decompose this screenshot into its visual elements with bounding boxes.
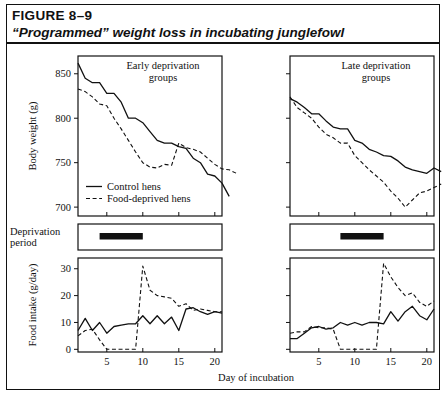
- panel-title-late-line1: Late deprivation: [341, 60, 411, 71]
- weight-early-ytick-label: 800: [55, 113, 71, 124]
- intake-early-frame: [78, 258, 222, 352]
- figure-container: FIGURE 8–9 “Programmed” weight loss in i…: [0, 0, 446, 394]
- intake-late-xtick-label: 5: [316, 356, 321, 367]
- weight-early-ytick-label: 700: [55, 202, 71, 213]
- legend-label-control: Control hens: [107, 181, 161, 192]
- panel-title-late-line2: groups: [362, 72, 391, 83]
- intake-early-ytick-label: 10: [61, 317, 72, 328]
- weight-early-ytick-label: 750: [55, 157, 71, 168]
- intake-late-xtick-label: 10: [350, 356, 361, 367]
- intake-early-xtick-label: 5: [104, 356, 109, 367]
- panel-title-early-line2: groups: [149, 72, 178, 83]
- chart-svg: 700750800850010203051015205101520Body we…: [0, 0, 446, 394]
- deprivation-label-line2: period: [10, 237, 38, 248]
- intake-early-ytick-label: 30: [61, 263, 72, 274]
- intake-early-xtick-label: 15: [174, 356, 185, 367]
- y-axis-title-body-weight: Body weight (g): [27, 101, 39, 170]
- weight-early-series-deprived: [78, 89, 236, 173]
- weight-early-ytick-label: 850: [55, 68, 71, 79]
- deprivation-label-line1: Deprivation: [10, 226, 61, 237]
- legend-label-deprived: Food-deprived hens: [107, 193, 191, 204]
- intake-early-ytick-label: 20: [61, 290, 72, 301]
- intake-late-series-control: [290, 306, 434, 338]
- intake-early-series-control: [78, 308, 222, 334]
- y-axis-title-food-intake: Food intake (g/day): [27, 263, 39, 346]
- intake-early-ytick-label: 0: [66, 344, 71, 355]
- intake-early-series-deprived: [78, 266, 222, 349]
- panel-title-early-line1: Early deprivation: [126, 60, 200, 71]
- deprivation-bar-early: [100, 233, 143, 240]
- deprivation-bar-late: [340, 233, 383, 240]
- weight-late-series-control: [290, 99, 441, 174]
- intake-early-xtick-label: 10: [138, 356, 149, 367]
- weight-early-series-control: [78, 63, 229, 196]
- intake-late-frame: [290, 258, 434, 352]
- x-axis-title-day: Day of incubation: [218, 372, 295, 383]
- intake-late-xtick-label: 20: [422, 356, 433, 367]
- intake-late-xtick-label: 15: [386, 356, 397, 367]
- intake-early-xtick-label: 20: [210, 356, 221, 367]
